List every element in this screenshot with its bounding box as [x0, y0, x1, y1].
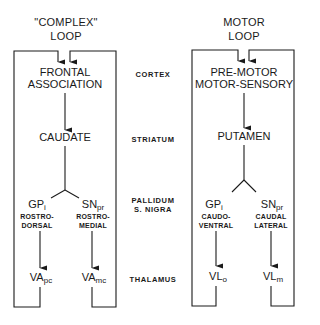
premotor-node: PRE-MOTOR MOTOR-SENSORY [195, 66, 293, 90]
rostro-dorsal-line2: DORSAL [20, 221, 54, 230]
vlo-main: VL [209, 270, 222, 282]
rostro-medial-line1: ROSTRO- [76, 212, 110, 221]
association-line: ASSOCIATION [28, 78, 102, 90]
snpr-main: SN [261, 198, 276, 210]
left-gpi-node: GPi [28, 199, 46, 212]
frontal-line: FRONTAL [28, 66, 102, 78]
gpi-sub: i [44, 203, 46, 212]
right-fork-gpi [232, 180, 244, 192]
gpi-main: GP [205, 198, 221, 210]
level-thalamus: THALAMUS [130, 275, 177, 284]
rostro-dorsal-line1: ROSTRO- [20, 212, 54, 221]
vapc-sub: pc [44, 276, 52, 285]
left-loop-title: "COMPLEX" LOOP [34, 17, 97, 42]
vlo-node: VLo [209, 271, 227, 284]
rostro-dorsal-label: ROSTRO- DORSAL [20, 212, 54, 230]
vamc-node: VAmc [82, 272, 107, 285]
vamc-main: VA [82, 271, 96, 283]
rostro-medial-line2: MEDIAL [76, 221, 110, 230]
caudate-node: CAUDATE [39, 132, 91, 143]
left-fork-snpr [65, 190, 79, 198]
level-pallidum-nigra: PALLIDUM S. NIGRA [132, 196, 175, 214]
level-striatum: STRIATUM [132, 135, 175, 144]
snpr-sub: pr [97, 203, 104, 212]
left-loop-title-line1: "COMPLEX" [34, 17, 97, 28]
caudal-lateral-line2: LATERAL [254, 221, 288, 230]
level-cortex: CORTEX [136, 70, 171, 79]
motor-sensory-line: MOTOR-SENSORY [195, 78, 293, 90]
rostro-medial-label: ROSTRO- MEDIAL [76, 212, 110, 230]
vlm-node: VLm [263, 271, 283, 284]
right-loop-title-line1: MOTOR [223, 17, 265, 28]
right-gpi-node: GPi [205, 199, 223, 212]
caudo-ventral-line1: CAUDO- [199, 212, 233, 221]
caudal-lateral-label: CAUDAL LATERAL [254, 212, 288, 230]
snpr-main: SN [82, 198, 97, 210]
left-loop-title-line2: LOOP [34, 31, 97, 42]
left-fork-gpi [51, 190, 65, 198]
left-snpr-node: SNpr [82, 199, 104, 212]
vlo-sub: o [223, 275, 227, 284]
frontal-association-node: FRONTAL ASSOCIATION [28, 66, 102, 90]
right-fork-snpr [244, 180, 256, 192]
vapc-node: VApc [30, 272, 52, 285]
vlm-sub: m [276, 275, 283, 284]
caudo-ventral-label: CAUDO- VENTRAL [199, 212, 233, 230]
level-nigra: S. NIGRA [132, 205, 175, 214]
caudal-lateral-line1: CAUDAL [254, 212, 288, 221]
vlm-main: VL [263, 270, 276, 282]
gpi-main: GP [28, 198, 44, 210]
gpi-sub: i [221, 203, 223, 212]
snpr-sub: pr [276, 203, 283, 212]
vapc-main: VA [30, 271, 44, 283]
caudo-ventral-line2: VENTRAL [199, 221, 233, 230]
level-pallidum: PALLIDUM [132, 196, 175, 205]
putamen-node: PUTAMEN [218, 131, 271, 142]
right-loop-title: MOTOR LOOP [223, 17, 265, 42]
right-loop-title-line2: LOOP [223, 31, 265, 42]
right-snpr-node: SNpr [261, 199, 283, 212]
vamc-sub: mc [96, 276, 107, 285]
premotor-line: PRE-MOTOR [195, 66, 293, 78]
